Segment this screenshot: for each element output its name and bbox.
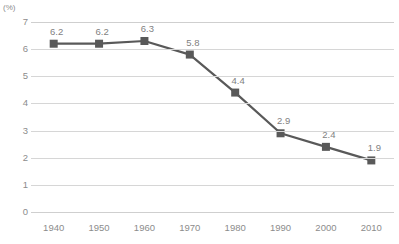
x-tick-label-1980: 1980: [225, 222, 246, 233]
data-point-2000: [322, 143, 330, 151]
data-point-1940: [50, 40, 58, 48]
line-chart: (%) 76543210 6.26.26.35.84.42.92.41.9 19…: [0, 0, 399, 244]
y-tick-label-3: 3: [4, 126, 28, 136]
data-label-1950: 6.2: [95, 26, 108, 37]
series-line: [31, 22, 394, 212]
data-label-1990: 2.9: [277, 115, 290, 126]
x-tick-label-1990: 1990: [270, 222, 291, 233]
gridline-7: [31, 22, 394, 23]
y-axis-unit-label: (%): [3, 3, 15, 13]
plot-area: 6.26.26.35.84.42.92.41.9: [31, 22, 394, 212]
y-tick-label-6: 6: [4, 44, 28, 54]
x-tick-label-1950: 1950: [88, 222, 109, 233]
series-polyline: [54, 41, 372, 160]
data-point-1980: [231, 89, 239, 97]
y-tick-label-5: 5: [4, 71, 28, 81]
gridline-0: [31, 212, 394, 213]
data-label-1970: 5.8: [186, 37, 199, 48]
data-label-2000: 2.4: [322, 129, 335, 140]
x-tick-label-1960: 1960: [134, 222, 155, 233]
gridline-6: [31, 49, 394, 50]
gridline-4: [31, 103, 394, 104]
data-point-1950: [95, 40, 103, 48]
gridline-3: [31, 131, 394, 132]
data-label-2010: 1.9: [368, 142, 381, 153]
y-tick-label-1: 1: [4, 180, 28, 190]
x-tick-label-1970: 1970: [179, 222, 200, 233]
gridline-1: [31, 185, 394, 186]
y-tick-label-7: 7: [4, 17, 28, 27]
y-tick-label-0: 0: [4, 207, 28, 217]
gridline-2: [31, 158, 394, 159]
data-point-1960: [140, 37, 148, 45]
y-axis: 76543210: [0, 22, 28, 212]
y-tick-label-2: 2: [4, 153, 28, 163]
data-label-1960: 6.3: [141, 23, 154, 34]
x-tick-label-1940: 1940: [43, 222, 64, 233]
x-axis: 19401950196019701980199020002010: [31, 216, 394, 240]
data-label-1940: 6.2: [50, 26, 63, 37]
gridline-5: [31, 76, 394, 77]
y-tick-label-4: 4: [4, 98, 28, 108]
x-tick-label-2000: 2000: [315, 222, 336, 233]
data-point-1970: [186, 51, 194, 59]
data-label-1980: 4.4: [232, 75, 245, 86]
x-tick-label-2010: 2010: [361, 222, 382, 233]
